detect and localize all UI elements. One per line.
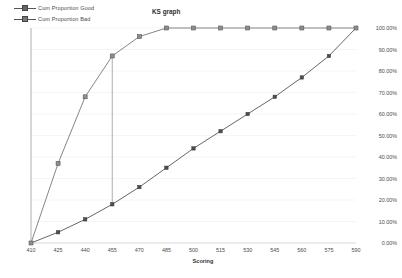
x-axis-tick-label: 410 [27, 247, 36, 253]
x-axis-tick-label: 425 [54, 247, 63, 253]
ks-graph-chart: Cum Proportion Good Cum Proportion Bad K… [0, 0, 402, 278]
x-axis-tick-label: 530 [243, 247, 252, 253]
x-axis-tick-label: 485 [162, 247, 171, 253]
x-axis-title: Scoring [193, 258, 214, 264]
x-axis-tick-label: 590 [352, 247, 361, 253]
x-axis-tick-label: 440 [81, 247, 90, 253]
x-axis-tick-label: 515 [216, 247, 225, 253]
x-axis-tick-label: 545 [270, 247, 279, 253]
x-axis-tick-label: 500 [189, 247, 198, 253]
x-axis-tick-label: 470 [135, 247, 144, 253]
x-axis-tick-label: 455 [108, 247, 117, 253]
x-axis-tick-label: 575 [324, 247, 333, 253]
x-axis-tick-label: 560 [297, 247, 306, 253]
x-axis-labels: 410425440455470485500515530545560575590 [0, 0, 402, 278]
